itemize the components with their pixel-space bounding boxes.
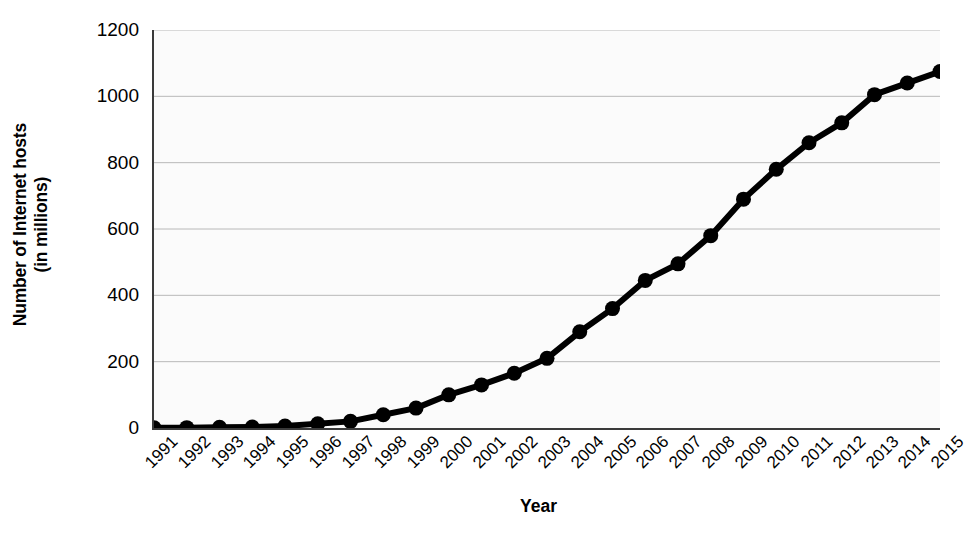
- plot-area: [152, 30, 940, 430]
- x-axis-tick-label-text: 2010: [764, 432, 805, 473]
- x-axis-tick-label-text: 1991: [141, 432, 182, 473]
- x-axis-tick-label-text: 2011: [797, 432, 837, 472]
- y-axis-tick-label: 600: [55, 218, 139, 240]
- data-point: [179, 420, 194, 428]
- data-point: [376, 407, 391, 422]
- data-point: [507, 366, 522, 381]
- data-point: [867, 87, 882, 102]
- data-point: [154, 420, 162, 428]
- y-axis-tick-label: 400: [55, 284, 139, 306]
- x-axis-tick-label-text: 1996: [305, 432, 346, 473]
- x-axis-tick-label-text: 2008: [698, 432, 739, 473]
- x-axis-tick-label-text: 1999: [403, 432, 444, 473]
- x-axis-tick-labels: 1991199219931994199519961997199819992000…: [152, 432, 942, 502]
- data-point: [441, 387, 456, 402]
- x-axis-tick-label-text: 1992: [174, 432, 215, 473]
- data-point: [638, 273, 653, 288]
- data-point: [769, 162, 784, 177]
- data-point: [409, 401, 424, 416]
- x-axis-tick-label-text: 2009: [731, 432, 772, 473]
- y-axis-title-line1: Number of Internet hosts: [10, 123, 30, 326]
- y-axis-tick-labels: 020040060080010001200: [55, 0, 139, 539]
- data-point: [474, 377, 489, 392]
- x-axis-tick-label-text: 2015: [927, 432, 968, 473]
- data-point: [900, 76, 915, 91]
- data-point: [343, 414, 358, 428]
- x-axis-tick-label-text: 1995: [272, 432, 313, 473]
- y-axis-tick-label: 1200: [55, 19, 139, 41]
- x-axis-tick-label-text: 2001: [469, 432, 510, 473]
- data-point: [310, 416, 325, 428]
- data-point: [802, 135, 817, 150]
- x-axis-tick-label-text: 1998: [371, 432, 412, 473]
- data-markers: [154, 64, 940, 428]
- x-axis-tick-label-text: 2012: [829, 432, 870, 473]
- x-axis-tick-label-text: 1994: [240, 432, 281, 473]
- x-axis-tick-label-text: 2007: [665, 432, 706, 473]
- data-point: [245, 420, 260, 428]
- x-axis-tick-label-text: 2013: [862, 432, 903, 473]
- x-axis-tick-label-text: 2004: [567, 432, 608, 473]
- x-axis-tick-label-text: 2000: [436, 432, 477, 473]
- data-point: [671, 256, 686, 271]
- x-axis-tick-label-text: 1997: [338, 432, 379, 473]
- data-point: [736, 192, 751, 207]
- data-point: [834, 115, 849, 130]
- y-axis-tick-label: 800: [55, 152, 139, 174]
- y-axis-tick-label: 0: [55, 417, 139, 439]
- x-axis-tick-label-text: 2014: [895, 432, 936, 473]
- x-axis-title: Year: [0, 496, 968, 517]
- gridlines: [154, 30, 940, 362]
- data-point: [278, 419, 293, 428]
- x-axis-tick-label-text: 2005: [600, 432, 641, 473]
- data-point: [572, 324, 587, 339]
- x-axis-tick-label-text: 1993: [207, 432, 248, 473]
- y-axis-title-line2: (in millions): [31, 123, 52, 326]
- x-axis-tick-label-text: 2006: [633, 432, 674, 473]
- data-point: [540, 351, 555, 366]
- y-axis-title: Number of Internet hosts (in millions): [0, 0, 62, 450]
- data-point: [703, 228, 718, 243]
- x-axis-tick-label-text: 2003: [534, 432, 575, 473]
- chart-canvas: [154, 30, 940, 428]
- data-point: [605, 301, 620, 316]
- data-line: [154, 71, 940, 427]
- y-axis-tick-label: 200: [55, 351, 139, 373]
- data-point: [212, 420, 227, 428]
- y-axis-tick-label: 1000: [55, 85, 139, 107]
- x-axis-tick-label-text: 2002: [502, 432, 543, 473]
